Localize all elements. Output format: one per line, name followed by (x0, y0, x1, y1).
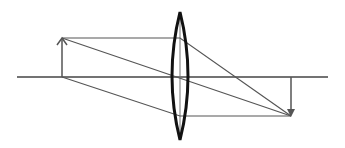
base-ray (62, 77, 291, 116)
image-arrow (287, 77, 295, 117)
lens-ray-diagram (0, 0, 345, 148)
object-arrow (57, 38, 67, 77)
